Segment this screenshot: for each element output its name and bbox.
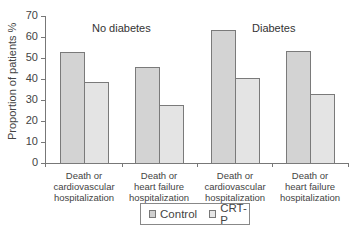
bar-control [60, 52, 85, 164]
legend: Control CRT-P [140, 203, 250, 225]
x-category-label-line: hospitalization [44, 192, 124, 203]
y-tick-label: 50 [18, 51, 38, 63]
x-tick [45, 163, 46, 167]
x-tick [272, 163, 273, 167]
x-category-label-line: hospitalization [119, 192, 199, 203]
x-category-label-line: heart failure [270, 181, 350, 192]
x-category-label-line: cardiovascular [195, 181, 275, 192]
x-category-label: Death orheart failurehospitalization [270, 170, 350, 203]
x-category-label-line: Death or [270, 170, 350, 181]
bar-control [135, 67, 160, 164]
y-tick-label: 10 [18, 135, 38, 147]
bar-crtp [310, 94, 335, 164]
y-tick-label: 30 [18, 93, 38, 105]
x-category-label-line: Death or [44, 170, 124, 181]
bar-crtp [84, 82, 109, 164]
x-tick [197, 163, 198, 167]
x-category-label: Death orcardiovascularhospitalization [195, 170, 275, 203]
y-axis-label: Proportion of patients % [6, 23, 18, 140]
y-tick-label: 60 [18, 30, 38, 42]
y-tick-label: 0 [18, 156, 38, 168]
x-category-label-line: hospitalization [270, 192, 350, 203]
y-axis-line [45, 16, 46, 164]
legend-swatch-crtp [209, 210, 216, 218]
legend-swatch-control [149, 210, 156, 218]
legend-label-control: Control [160, 208, 197, 220]
x-category-label: Death orcardiovascularhospitalization [44, 170, 124, 203]
bar-control [286, 51, 311, 164]
x-category-label-line: cardiovascular [44, 181, 124, 192]
legend-label-crtp: CRT-P [220, 202, 249, 226]
x-tick [348, 163, 349, 167]
x-category-label-line: Death or [119, 170, 199, 181]
bar-control [211, 30, 236, 164]
panel-title-no-diabetes: No diabetes [92, 22, 151, 34]
panel-title-diabetes: Diabetes [252, 22, 295, 34]
x-tick [122, 163, 123, 167]
y-tick-label: 70 [18, 9, 38, 21]
x-category-label-line: Death or [195, 170, 275, 181]
bar-crtp [235, 78, 260, 164]
bar-crtp [159, 105, 184, 164]
y-tick-label: 20 [18, 114, 38, 126]
x-category-label: Death orheart failurehospitalization [119, 170, 199, 203]
x-category-label-line: heart failure [119, 181, 199, 192]
y-tick-label: 40 [18, 72, 38, 84]
